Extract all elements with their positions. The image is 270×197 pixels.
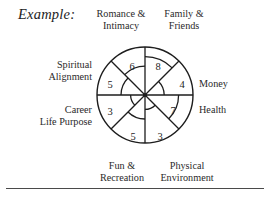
score-physical-environment: 3 xyxy=(154,131,166,142)
label-career-line2: Life Purpose xyxy=(10,116,92,128)
score-health: 7 xyxy=(167,105,179,116)
score-money: 4 xyxy=(176,79,188,90)
wheel-arc-money xyxy=(159,81,165,95)
wheel-arc-spiritual-alignment xyxy=(121,78,128,95)
label-career-line1: Career xyxy=(10,104,92,116)
label-fun-recreation-line1: Fun & xyxy=(93,160,151,172)
label-fun-recreation: Fun & Recreation xyxy=(93,160,151,183)
figure-container: Example: Romance & Intimacy Family & Fri… xyxy=(0,0,270,197)
label-family-friends-line2: Friends xyxy=(155,20,213,32)
wheel-center-hub xyxy=(143,93,147,97)
label-health-text: Health xyxy=(199,104,259,116)
footer-divider xyxy=(6,188,264,189)
score-career-life-purpose: 3 xyxy=(104,106,116,117)
wheel-arc-physical-environment xyxy=(145,105,155,109)
wheel-arc-fun-recreation xyxy=(128,112,145,119)
label-family-friends: Family & Friends xyxy=(155,8,213,31)
score-romance-intimacy: 6 xyxy=(126,61,138,72)
label-physical-environment-line1: Physical xyxy=(152,160,222,172)
label-career-life-purpose: Career Life Purpose xyxy=(10,104,92,127)
wheel-arc-career-life-purpose xyxy=(131,95,135,105)
score-family-friends: 8 xyxy=(152,61,164,72)
label-family-friends-line1: Family & xyxy=(155,8,213,20)
label-spiritual-alignment: Spiritual Alignment xyxy=(22,59,92,82)
label-physical-environment: Physical Environment xyxy=(152,160,222,183)
label-romance-intimacy-line1: Romance & xyxy=(90,8,152,20)
label-romance-intimacy-line2: Intimacy xyxy=(90,20,152,32)
label-spiritual-alignment-line2: Alignment xyxy=(22,71,92,83)
label-money: Money xyxy=(199,78,259,90)
score-fun-recreation: 5 xyxy=(127,131,139,142)
label-romance-intimacy: Romance & Intimacy xyxy=(90,8,152,31)
label-fun-recreation-line2: Recreation xyxy=(93,172,151,184)
label-physical-environment-line2: Environment xyxy=(152,172,222,184)
label-health: Health xyxy=(199,104,259,116)
label-money-text: Money xyxy=(199,78,259,90)
wheel-geometry xyxy=(97,47,193,143)
score-spiritual-alignment: 5 xyxy=(104,79,116,90)
label-spiritual-alignment-line1: Spiritual xyxy=(22,59,92,71)
